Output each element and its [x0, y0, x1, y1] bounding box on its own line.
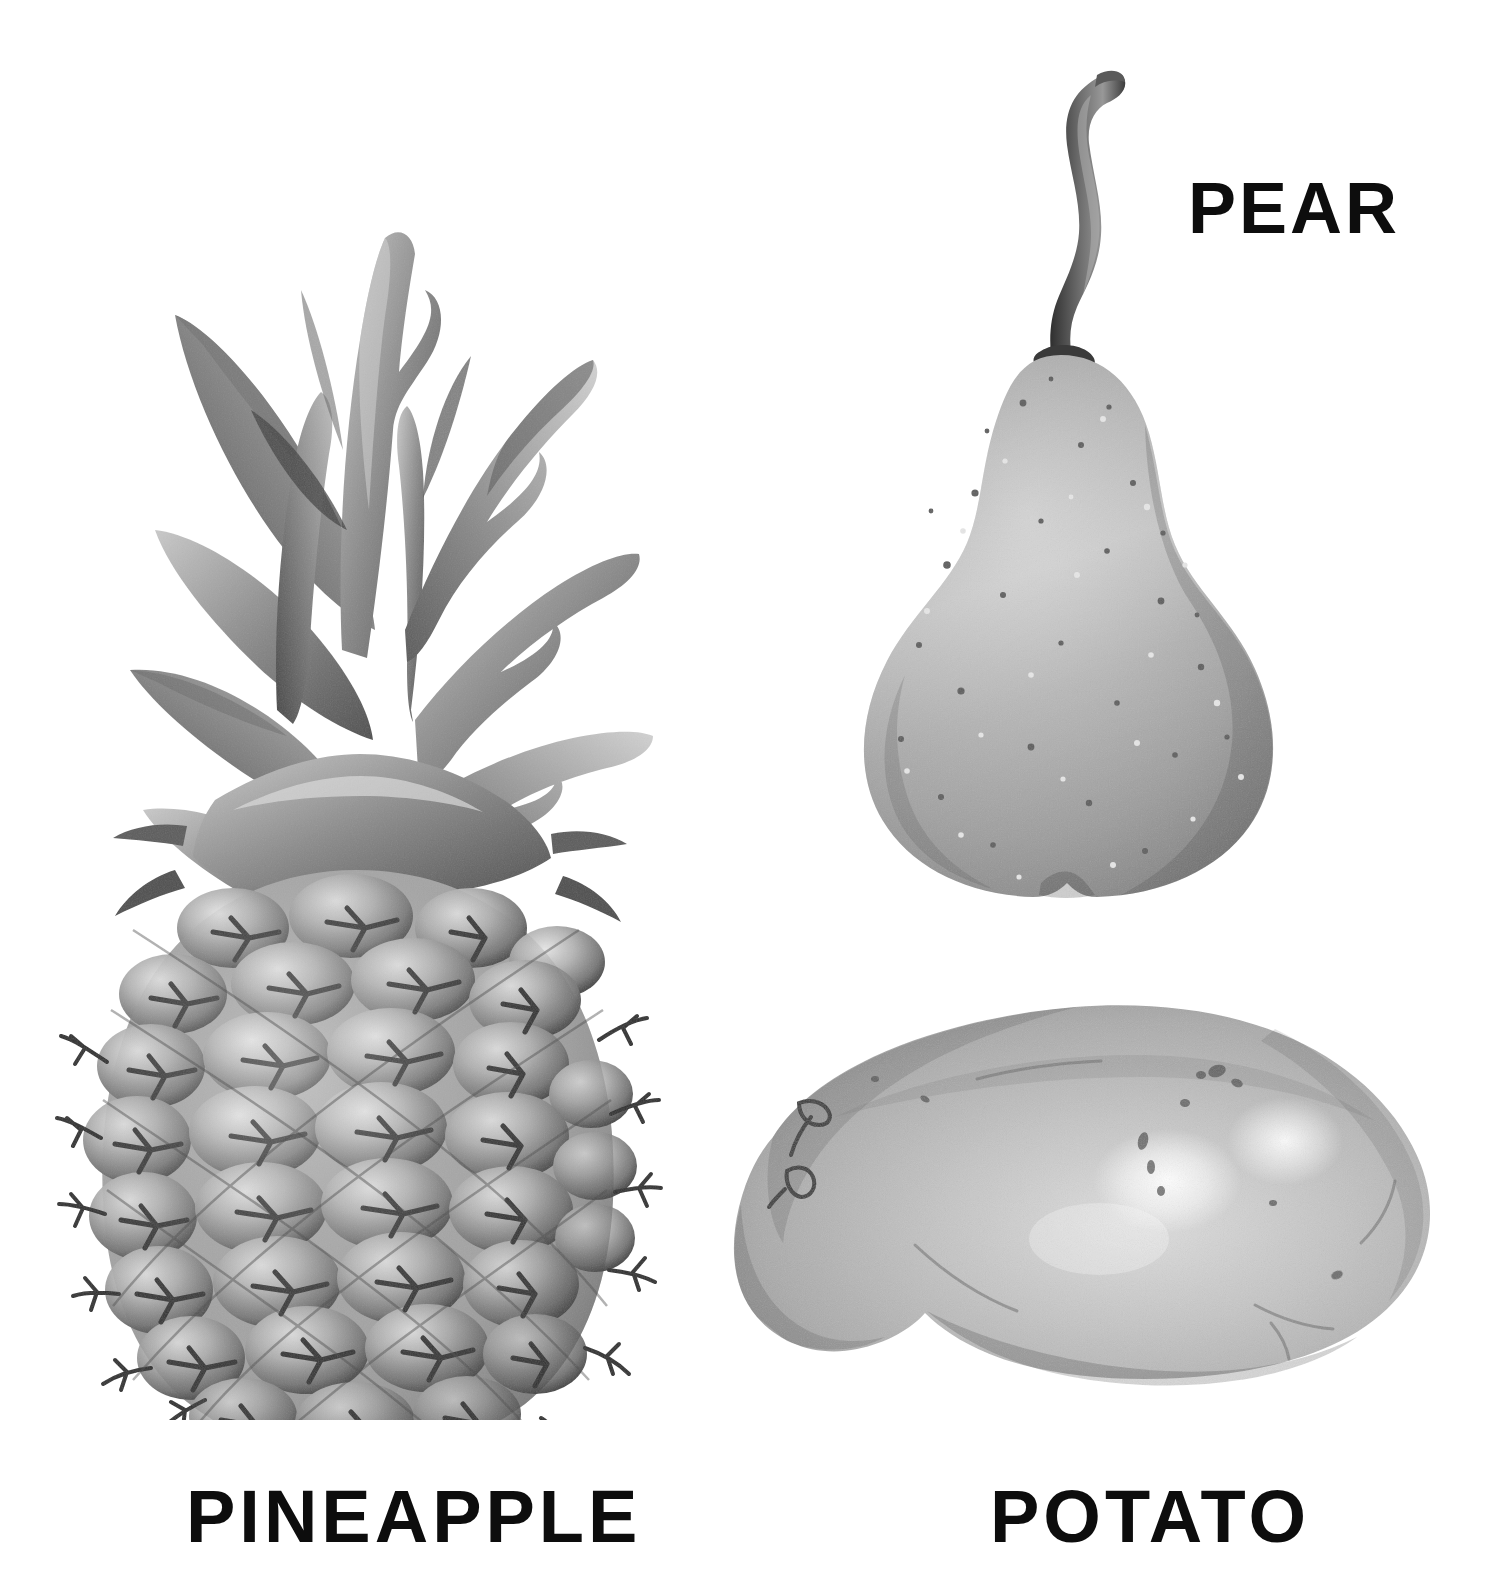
pear-label: PEAR [1188, 172, 1400, 244]
pear-body [864, 355, 1273, 898]
potato-label: POTATO [990, 1480, 1310, 1554]
pineapple-label: PINEAPPLE [186, 1480, 641, 1554]
potato-body [734, 1005, 1430, 1385]
pear-stem [1034, 71, 1126, 375]
pineapple-body [57, 870, 661, 1420]
potato-illustration [715, 975, 1450, 1415]
illustration-plate: PEAR PINEAPPLE POTATO [0, 0, 1501, 1575]
pineapple-illustration [55, 110, 665, 1420]
